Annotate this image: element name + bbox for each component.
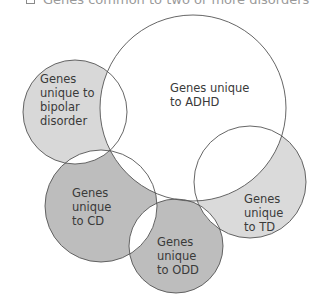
venn-diagram: Genes unique to ADHD Genes unique to bip…	[0, 0, 323, 308]
label-odd: Genes unique to ODD	[157, 235, 200, 277]
